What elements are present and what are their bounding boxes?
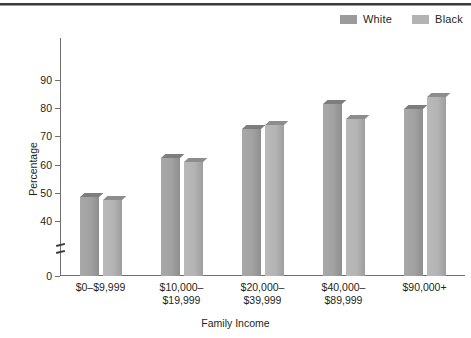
x-category-label: $10,000–$19,999 xyxy=(160,281,204,307)
bar-black[interactable] xyxy=(427,97,446,276)
legend-item-white: White xyxy=(340,13,392,25)
bar-white[interactable] xyxy=(161,158,180,276)
bar-face xyxy=(346,119,365,276)
x-category-label-line: $90,000+ xyxy=(402,281,446,294)
bar-group: $90,000+ xyxy=(384,38,465,276)
bar-top-face xyxy=(184,158,207,162)
x-category-label: $20,000–$39,999 xyxy=(241,281,285,307)
legend-label-white: White xyxy=(363,13,392,25)
legend-swatch-white-icon xyxy=(340,15,357,24)
x-category-label: $90,000+ xyxy=(402,281,446,294)
plot-area: 0 40 50 60 70 80 90 $0–$9,999$10,000–$19… xyxy=(60,38,465,276)
bar-rect[interactable] xyxy=(265,125,284,276)
bar-group: $0–$9,999 xyxy=(60,38,141,276)
x-category-label: $40,000–$89,999 xyxy=(322,281,366,307)
bar-pair xyxy=(222,38,303,276)
y-tick-label-60: 60 xyxy=(40,159,52,171)
bar-rect[interactable] xyxy=(242,129,261,276)
y-tick-label-70: 70 xyxy=(40,130,52,142)
header-rule-secondary xyxy=(0,5,471,6)
bar-face xyxy=(265,125,284,276)
x-category-label-line: $39,999 xyxy=(241,294,285,307)
bar-rect[interactable] xyxy=(103,200,122,276)
legend-label-black: Black xyxy=(435,13,463,25)
bar-white[interactable] xyxy=(242,129,261,276)
bar-black[interactable] xyxy=(346,119,365,276)
y-tick-label-0: 0 xyxy=(46,270,52,282)
bar-face xyxy=(103,200,122,276)
x-category-label-line: $10,000– xyxy=(160,281,204,294)
bar-group: $20,000–$39,999 xyxy=(222,38,303,276)
bar-rect[interactable] xyxy=(346,119,365,276)
bar-black[interactable] xyxy=(184,162,203,276)
bar-top-face xyxy=(265,121,288,125)
legend-item-black: Black xyxy=(412,13,463,25)
bar-pair xyxy=(303,38,384,276)
bar-face xyxy=(427,97,446,276)
x-category-label-line: $89,999 xyxy=(322,294,366,307)
bar-black[interactable] xyxy=(265,125,284,276)
bar-face xyxy=(80,197,99,276)
bar-pair xyxy=(384,38,465,276)
bar-face xyxy=(404,109,423,276)
chart-figure: White Black Percentage 0 40 50 60 70 80 … xyxy=(0,0,471,338)
bar-white[interactable] xyxy=(80,197,99,276)
legend-swatch-black-icon xyxy=(412,15,429,24)
x-category-label-line: $40,000– xyxy=(322,281,366,294)
x-axis-title: Family Income xyxy=(0,317,471,329)
bar-face xyxy=(161,158,180,276)
bar-top-face xyxy=(242,125,265,129)
bar-top-face xyxy=(323,100,346,104)
y-axis-title: Percentage xyxy=(27,142,39,196)
y-tick-0 xyxy=(55,276,60,277)
bar-top-face xyxy=(161,154,184,158)
bar-rect[interactable] xyxy=(161,158,180,276)
x-category-label-line: $20,000– xyxy=(241,281,285,294)
bar-group: $10,000–$19,999 xyxy=(141,38,222,276)
bar-face xyxy=(242,129,261,276)
x-category-label: $0–$9,999 xyxy=(76,281,126,294)
bar-white[interactable] xyxy=(323,104,342,276)
bar-pair xyxy=(60,38,141,276)
y-tick-label-40: 40 xyxy=(40,215,52,227)
bar-face xyxy=(323,104,342,276)
bar-rect[interactable] xyxy=(427,97,446,276)
x-category-label-line: $0–$9,999 xyxy=(76,281,126,294)
bar-group: $40,000–$89,999 xyxy=(303,38,384,276)
bar-face xyxy=(184,162,203,276)
y-tick-label-90: 90 xyxy=(40,74,52,86)
chart-legend: White Black xyxy=(340,13,463,25)
y-tick-label-80: 80 xyxy=(40,102,52,114)
bar-top-face xyxy=(404,105,427,109)
bar-top-face xyxy=(80,193,103,197)
bar-top-face xyxy=(103,196,126,200)
x-category-label-line: $19,999 xyxy=(160,294,204,307)
bar-rect[interactable] xyxy=(404,109,423,276)
bar-pair xyxy=(141,38,222,276)
bar-rect[interactable] xyxy=(80,197,99,276)
y-tick-label-50: 50 xyxy=(40,187,52,199)
bar-rect[interactable] xyxy=(184,162,203,276)
bar-white[interactable] xyxy=(404,109,423,276)
bar-black[interactable] xyxy=(103,200,122,276)
bar-rect[interactable] xyxy=(323,104,342,276)
bar-top-face xyxy=(346,115,369,119)
bar-top-face xyxy=(427,93,450,97)
